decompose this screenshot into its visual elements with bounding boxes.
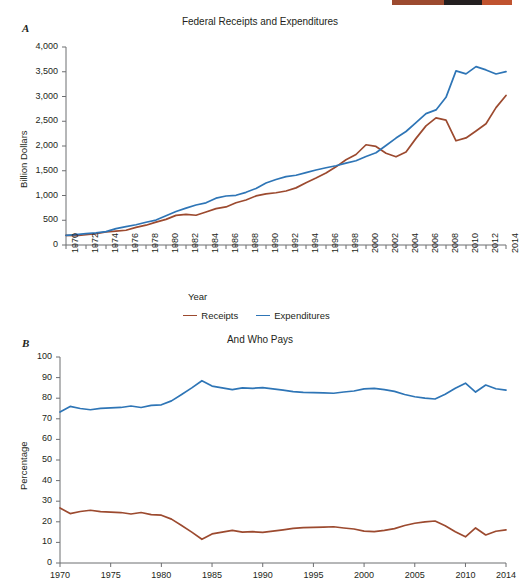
x-tick-label-b: 2000 — [350, 570, 378, 580]
y-tick-label-b: 10 — [0, 536, 52, 546]
y-tick-label-b: 100 — [0, 351, 52, 361]
y-tick-label-b: 60 — [0, 433, 52, 443]
y-tick-label-b: 50 — [0, 454, 52, 464]
y-tick-label-b: 0 — [0, 557, 52, 567]
x-tick-label-b: 2010 — [451, 570, 479, 580]
y-tick-label-b: 30 — [0, 495, 52, 505]
x-tick-label-b: 1970 — [46, 570, 74, 580]
y-tick-label-b: 40 — [0, 475, 52, 485]
x-tick-label-b: 1990 — [249, 570, 277, 580]
x-tick-label-b: 1985 — [198, 570, 226, 580]
series-line-individuals — [60, 381, 506, 412]
x-tick-label-b: 1995 — [299, 570, 327, 580]
y-tick-label-b: 70 — [0, 413, 52, 423]
series-line-corporations — [60, 508, 506, 539]
y-tick-label-b: 20 — [0, 516, 52, 526]
x-tick-label-b: 2005 — [401, 570, 429, 580]
x-tick-label-b: 1980 — [147, 570, 175, 580]
x-tick-label-b: 1975 — [97, 570, 125, 580]
y-tick-label-b: 80 — [0, 392, 52, 402]
y-tick-label-b: 90 — [0, 372, 52, 382]
x-tick-label-b: 2014 — [492, 570, 520, 580]
